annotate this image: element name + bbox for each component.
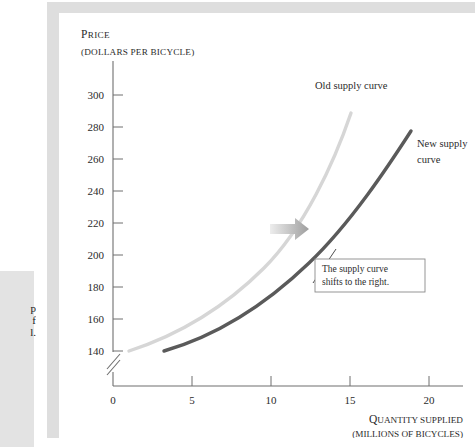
x-tick-label-10: 10 xyxy=(266,394,278,406)
x-tick-label-5: 5 xyxy=(189,394,195,406)
caption-fragment-2: f xyxy=(22,314,36,326)
x-axis-title-line1: QUANTITY SUPPLIED xyxy=(369,413,463,425)
supply-curve-chart: PRICE (DOLLARS PER BICYCLE) xyxy=(59,13,475,438)
page-left-band xyxy=(47,2,59,438)
x-axis-title-line2: (MILLIONS OF BICYCLES) xyxy=(352,429,463,438)
shift-note-line1: The supply curve xyxy=(322,264,388,274)
y-tick-label-240: 240 xyxy=(88,185,105,197)
old-supply-curve-label: Old supply curve xyxy=(315,80,388,91)
x-tick-label-20: 20 xyxy=(424,394,436,406)
caption-fragment-1: p xyxy=(22,302,36,314)
shift-note-line2: shifts to the right. xyxy=(322,277,389,287)
y-tick-label-220: 220 xyxy=(88,217,105,229)
new-supply-curve-label-line1: New supply xyxy=(417,138,468,149)
y-axis-title-line1: PRICE xyxy=(81,28,110,40)
y-tick-label-300: 300 xyxy=(88,89,105,101)
y-tick-label-140: 140 xyxy=(88,345,105,357)
x-tick-label-15: 15 xyxy=(345,394,357,406)
x-tick-label-0: 0 xyxy=(110,394,116,406)
plot-area: PRICE (DOLLARS PER BICYCLE) xyxy=(59,13,475,438)
caption-strip: p f l. xyxy=(0,271,34,447)
page-top-band xyxy=(47,2,475,13)
shift-note-box: The supply curve shifts to the right. xyxy=(315,259,425,292)
y-tick-label-180: 180 xyxy=(88,281,105,293)
new-supply-curve-label-line2: curve xyxy=(417,154,441,165)
y-tick-label-280: 280 xyxy=(88,121,105,133)
y-axis-title-line2: (DOLLARS PER BICYCLE) xyxy=(81,47,194,57)
y-axis-break-icon xyxy=(107,354,120,375)
x-axis-ticks xyxy=(192,376,429,386)
y-axis-ticks xyxy=(113,95,123,351)
caption-fragment-3: l. xyxy=(22,326,36,338)
y-tick-label-200: 200 xyxy=(88,249,105,261)
y-tick-label-160: 160 xyxy=(88,313,105,325)
y-tick-label-260: 260 xyxy=(88,153,105,165)
figure-container: p f l. PRICE (DOLLARS PER BICYCLE) xyxy=(0,0,475,447)
